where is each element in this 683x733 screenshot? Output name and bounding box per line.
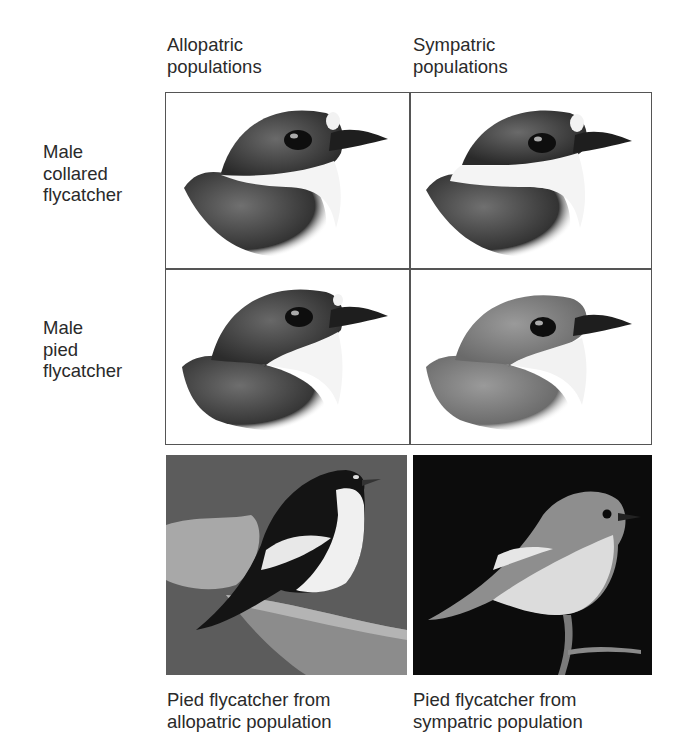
cell-collared-allopatric [166,93,408,267]
column-header-line: populations [167,56,262,78]
caption-sympatric-photo: Pied flycatcher from sympatric populatio… [413,689,583,732]
pied-flycatcher-dark-head-icon [166,270,408,444]
row-label-line: pied [43,339,122,361]
row-label-line: collared [43,163,122,185]
row-label-line: Male [43,317,122,339]
column-header-line: Sympatric [413,34,508,56]
brown-pied-flycatcher-photo-icon [413,455,652,675]
cell-pied-sympatric [410,270,652,444]
row-label-line: Male [43,141,122,163]
row-label-pied: Male pied flycatcher [43,317,122,382]
caption-line: Pied flycatcher from [413,689,583,711]
caption-line: sympatric population [413,711,583,733]
cell-collared-sympatric [410,93,652,267]
caption-line: allopatric population [167,711,332,733]
black-white-pied-flycatcher-photo-icon [166,455,407,675]
caption-line: Pied flycatcher from [167,689,332,711]
photo-pied-allopatric [166,455,407,675]
caption-allopatric-photo: Pied flycatcher from allopatric populati… [167,689,332,732]
cell-pied-allopatric [166,270,408,444]
collared-flycatcher-head-icon [166,93,408,267]
column-header-sympatric: Sympatric populations [413,34,508,77]
column-header-line: populations [413,56,508,78]
collared-flycatcher-head-icon [410,93,652,267]
pied-flycatcher-brown-head-icon [410,270,652,444]
column-header-allopatric: Allopatric populations [167,34,262,77]
row-label-line: flycatcher [43,184,122,206]
row-label-line: flycatcher [43,360,122,382]
column-header-line: Allopatric [167,34,262,56]
photo-pied-sympatric [413,455,652,675]
illustration-grid [165,92,652,445]
row-label-collared: Male collared flycatcher [43,141,122,206]
